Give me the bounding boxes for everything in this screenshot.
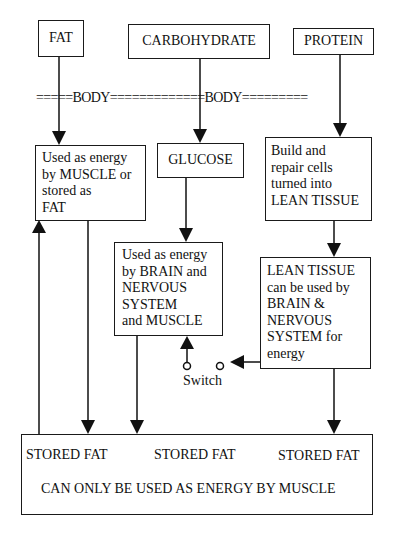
stored-fat-left: STORED FAT [26, 447, 108, 464]
stored-fat-note: CAN ONLY BE USED AS ENERGY BY MUSCLE [41, 481, 336, 498]
glucose-box: GLUCOSE [157, 143, 244, 178]
protein-use-text: Build and repair cells turned into LEAN … [271, 143, 359, 209]
lean-tissue-text: LEAN TISSUE can be used by BRAIN & NERVO… [267, 263, 355, 362]
lean-tissue-box: LEAN TISSUE can be used by BRAIN & NERVO… [260, 257, 371, 369]
glucose-use-box: Used as energy by BRAIN and NERVOUS SYST… [114, 242, 223, 336]
fat-use-text: Used as energy by MUSCLE or stored as FA… [42, 150, 131, 216]
stored-fat-right: STORED FAT [278, 448, 360, 465]
protein-source-label: PROTEIN [304, 33, 363, 50]
switch-contact-right [217, 363, 224, 370]
fat-source-box: FAT [38, 20, 84, 57]
glucose-label: GLUCOSE [168, 152, 233, 169]
carbohydrate-source-label: CARBOHYDRATE [142, 33, 256, 50]
carbohydrate-source-box: CARBOHYDRATE [128, 24, 270, 59]
stored-fat-box: STORED FAT STORED FAT STORED FAT CAN ONL… [21, 434, 373, 515]
glucose-use-text: Used as energy by BRAIN and NERVOUS SYST… [122, 247, 207, 330]
fat-source-label: FAT [49, 30, 73, 47]
body-boundary-line: =====BODY=============BODY========= [36, 90, 308, 107]
switch-label: Switch [183, 373, 222, 390]
fat-use-box: Used as energy by MUSCLE or stored as FA… [35, 145, 146, 221]
protein-source-box: PROTEIN [293, 28, 374, 55]
protein-use-box: Build and repair cells turned into LEAN … [265, 137, 372, 221]
switch-contact-left [184, 363, 191, 370]
stored-fat-middle: STORED FAT [154, 447, 236, 464]
